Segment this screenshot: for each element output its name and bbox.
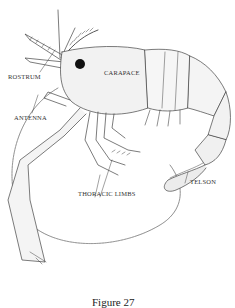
figure-caption: Figure 27 [92, 296, 134, 308]
label-thoracic-limbs: THORACIC LIMBS [78, 190, 136, 197]
label-telson: TELSON [190, 178, 216, 185]
label-rostrum: ROSTRUM [8, 73, 41, 80]
label-antenna: ANTENNA [14, 114, 47, 121]
label-carapace: CARAPACE [104, 69, 140, 76]
